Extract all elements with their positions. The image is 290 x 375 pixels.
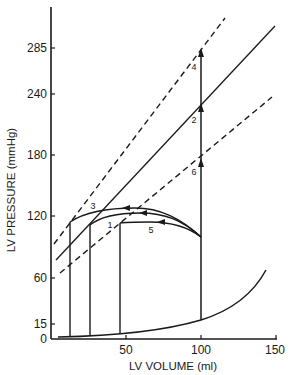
espvr-lines <box>54 18 275 273</box>
ejection-curve-5 <box>120 222 201 237</box>
annotation-4: 4 <box>191 62 196 72</box>
y-tick-label: 60 <box>34 271 48 285</box>
y-axis-title: LV PRESSURE (mmHg) <box>5 128 17 253</box>
x-tick-label: 50 <box>119 343 133 357</box>
espvr-lower-dashed <box>60 97 272 273</box>
y-tick-labels: 285 240 180 120 60 15 0 <box>27 41 47 346</box>
x-tick-label: 150 <box>265 343 285 357</box>
y-tick-label: 285 <box>27 41 47 55</box>
edpvr-curve <box>58 270 266 337</box>
arrow-left-icon <box>122 205 130 211</box>
x-tick-label: 100 <box>191 343 211 357</box>
arrow-left-icon <box>139 210 147 216</box>
annotation-5: 5 <box>148 225 153 235</box>
y-tick-label: 15 <box>34 317 48 331</box>
axes <box>51 7 277 339</box>
pressure-volume-chart: 285 240 180 120 60 15 0 50 100 150 LV VO… <box>0 0 290 375</box>
annotation-3: 3 <box>90 201 95 211</box>
arrow-up-icon <box>198 158 204 167</box>
isovolumic-contraction <box>198 48 204 320</box>
y-tick-label: 240 <box>27 87 47 101</box>
espvr-upper-dashed <box>54 18 225 244</box>
y-tick-label: 0 <box>40 332 47 346</box>
arrow-left-icon <box>157 219 165 225</box>
x-axis-title: LV VOLUME (ml) <box>129 360 217 372</box>
annotation-1: 1 <box>107 220 112 230</box>
y-tick-label: 120 <box>27 209 47 223</box>
espvr-control-solid <box>56 26 275 260</box>
relaxation-lines <box>70 222 120 337</box>
x-tick-labels: 50 100 150 <box>119 343 285 357</box>
y-tick-label: 180 <box>27 148 47 162</box>
annotation-2: 2 <box>191 115 196 125</box>
annotation-6: 6 <box>191 167 196 177</box>
